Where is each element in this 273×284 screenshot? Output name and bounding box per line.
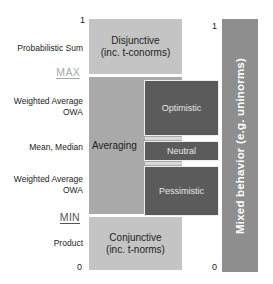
conjunctive-subtitle: (inc. t-norms): [106, 244, 165, 256]
right-axis-bottom-tick: 0: [212, 262, 217, 272]
neutral-box: Neutral: [144, 141, 219, 161]
label-weighted-average-line1: Weighted Average: [14, 174, 83, 185]
right-axis-top-tick: 1: [212, 21, 217, 31]
label-weighted-average-owa-lower: Weighted Average OWA: [14, 174, 83, 196]
label-owa-line2: OWA: [14, 185, 83, 196]
disjunctive-title: Disjunctive: [101, 35, 170, 47]
disjunctive-subtitle: (inc. t-conorms): [101, 47, 170, 59]
label-weighted-average-line1: Weighted Average: [14, 96, 83, 107]
mixed-behavior-label: Mixed behavior (e.g. uninorms): [234, 58, 246, 234]
label-max: MAX: [56, 66, 80, 79]
label-owa-line2: OWA: [14, 107, 83, 118]
disjunctive-box: Disjunctive (inc. t-conorms): [89, 19, 182, 74]
separator-strip-lower: [145, 162, 182, 165]
left-axis-top-tick: 1: [80, 15, 85, 25]
mixed-behavior-bar: Mixed behavior (e.g. uninorms): [222, 19, 258, 272]
separator-strip-upper: [145, 137, 182, 140]
optimistic-box: Optimistic: [144, 80, 219, 136]
label-weighted-average-owa-upper: Weighted Average OWA: [14, 96, 83, 118]
label-product: Product: [54, 238, 83, 249]
pessimistic-box: Pessimistic: [144, 166, 219, 216]
label-min: MIN: [60, 211, 80, 224]
label-mean-median: Mean, Median: [29, 142, 83, 153]
left-axis-bottom-tick: 0: [77, 262, 82, 272]
label-probabilistic-sum: Probabilistic Sum: [17, 43, 83, 54]
neutral-label: Neutral: [167, 146, 196, 156]
conjunctive-box: Conjunctive (inc. t-norms): [89, 217, 182, 270]
averaging-label: Averaging: [92, 140, 137, 151]
conjunctive-title: Conjunctive: [106, 232, 165, 244]
pessimistic-label: Pessimistic: [159, 186, 204, 196]
optimistic-label: Optimistic: [162, 103, 202, 113]
